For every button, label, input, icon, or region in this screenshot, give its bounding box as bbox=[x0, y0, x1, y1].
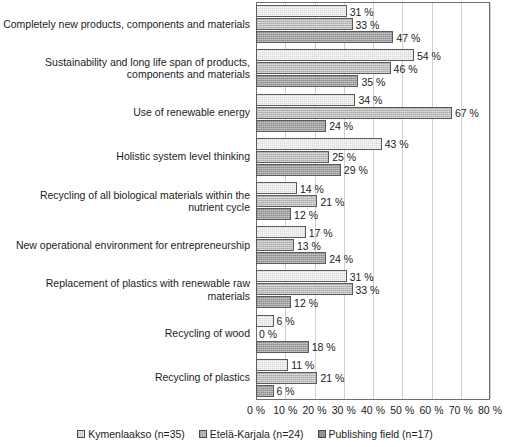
category-label: Recycling of plastics bbox=[2, 371, 250, 384]
bar-value-label: 12 % bbox=[294, 209, 318, 221]
bar-value-label: 13 % bbox=[297, 240, 321, 252]
bar-value-label: 54 % bbox=[417, 50, 441, 62]
bar bbox=[256, 239, 294, 251]
x-tick-label: 80 % bbox=[478, 404, 502, 416]
bar-value-label: 17 % bbox=[309, 227, 333, 239]
bar-value-label: 12 % bbox=[294, 297, 318, 309]
bar-value-label: 33 % bbox=[356, 284, 380, 296]
bar-value-label: 31 % bbox=[350, 271, 374, 283]
bar-value-label: 29 % bbox=[344, 164, 368, 176]
legend-item[interactable]: Publishing field (n=17) bbox=[318, 428, 433, 440]
category-label: Use of renewable energy bbox=[2, 106, 250, 119]
legend-swatch-icon bbox=[318, 430, 326, 438]
bar-value-label: 47 % bbox=[396, 32, 420, 44]
legend-label: Kymenlaakso (n=35) bbox=[88, 428, 185, 440]
legend-label: Etelä-Karjala (n=24) bbox=[210, 428, 304, 440]
bar-value-label: 67 % bbox=[455, 107, 479, 119]
x-tick-label: 70 % bbox=[449, 404, 473, 416]
bar-value-label: 6 % bbox=[277, 315, 295, 327]
chart-legend: Kymenlaakso (n=35)Etelä-Karjala (n=24)Pu… bbox=[0, 428, 510, 440]
bar-value-label: 43 % bbox=[385, 138, 409, 150]
bar-value-label: 34 % bbox=[358, 94, 382, 106]
x-tick-label: 40 % bbox=[361, 404, 385, 416]
bar bbox=[256, 107, 452, 119]
bar-value-label: 6 % bbox=[277, 385, 295, 397]
legend-swatch-icon bbox=[77, 430, 85, 438]
x-tick-label: 30 % bbox=[332, 404, 356, 416]
x-tick-label: 10 % bbox=[273, 404, 297, 416]
bar bbox=[256, 138, 382, 150]
gridline bbox=[461, 3, 462, 399]
bar bbox=[256, 283, 353, 295]
bar bbox=[256, 270, 347, 282]
bar bbox=[256, 208, 291, 220]
bar bbox=[256, 49, 414, 61]
bar-value-label: 21 % bbox=[320, 372, 344, 384]
bar-value-label: 0 % bbox=[259, 328, 277, 340]
bar-value-label: 33 % bbox=[356, 19, 380, 31]
bar-value-label: 21 % bbox=[320, 196, 344, 208]
category-label: Holistic system level thinking bbox=[2, 150, 250, 163]
bar-value-label: 35 % bbox=[361, 76, 385, 88]
bar bbox=[256, 195, 317, 207]
bar-value-label: 46 % bbox=[394, 63, 418, 75]
bar-value-label: 18 % bbox=[312, 341, 336, 353]
bar-value-label: 14 % bbox=[300, 183, 324, 195]
bar bbox=[256, 359, 288, 371]
bar bbox=[256, 151, 329, 163]
bar bbox=[256, 18, 353, 30]
bar-value-label: 24 % bbox=[329, 120, 353, 132]
bar bbox=[256, 341, 309, 353]
bar-value-label: 25 % bbox=[332, 151, 356, 163]
bar-chart: Completely new products, components and … bbox=[0, 0, 510, 447]
bar-value-label: 31 % bbox=[350, 6, 374, 18]
legend-item[interactable]: Etelä-Karjala (n=24) bbox=[199, 428, 304, 440]
bar bbox=[256, 164, 341, 176]
bar bbox=[256, 31, 393, 43]
bar bbox=[256, 385, 274, 397]
legend-label: Publishing field (n=17) bbox=[329, 428, 433, 440]
bar bbox=[256, 315, 274, 327]
bar bbox=[256, 252, 326, 264]
gridline bbox=[490, 3, 491, 399]
category-label: Sustainability and long life span of pro… bbox=[2, 56, 250, 81]
bar bbox=[256, 372, 317, 384]
category-label: New operational environment for entrepre… bbox=[2, 239, 250, 252]
bar bbox=[256, 120, 326, 132]
category-label: Recycling of wood bbox=[2, 327, 250, 340]
bar-value-label: 24 % bbox=[329, 253, 353, 265]
bar bbox=[256, 94, 355, 106]
category-label: Completely new products, components and … bbox=[2, 18, 250, 31]
bar bbox=[256, 75, 358, 87]
bar bbox=[256, 62, 391, 74]
legend-item[interactable]: Kymenlaakso (n=35) bbox=[77, 428, 185, 440]
bar bbox=[256, 296, 291, 308]
bar bbox=[256, 5, 347, 17]
gridline bbox=[432, 3, 433, 399]
bar bbox=[256, 182, 297, 194]
legend-swatch-icon bbox=[199, 430, 207, 438]
x-tick-label: 20 % bbox=[303, 404, 327, 416]
x-tick-label: 50 % bbox=[390, 404, 414, 416]
x-tick-label: 60 % bbox=[420, 404, 444, 416]
bar-value-label: 11 % bbox=[291, 359, 314, 371]
category-label: Replacement of plastics with renewable r… bbox=[2, 277, 250, 302]
x-tick-label: 0 % bbox=[247, 404, 265, 416]
bar bbox=[256, 226, 306, 238]
category-label: Recycling of all biological materials wi… bbox=[2, 189, 250, 214]
